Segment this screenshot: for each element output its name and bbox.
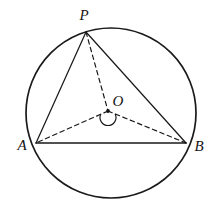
label-b: B [194,138,203,154]
geometry-figure: P A B O [0,0,217,212]
segment-ob-dashed [108,111,186,143]
circumcircle [26,28,196,198]
label-a: A [16,137,27,153]
label-o: O [113,93,124,109]
center-point-dot [106,109,110,113]
segment-oa-dashed [36,111,108,143]
segment-pa-solid [36,32,86,143]
geometry-canvas: P A B O [0,0,217,212]
reflex-angle-arc [100,114,116,125]
label-p: P [78,7,88,23]
